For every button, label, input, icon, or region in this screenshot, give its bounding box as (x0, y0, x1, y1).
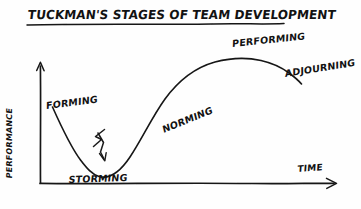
title-underline-stroke (27, 24, 284, 25)
page-title: Tuckman's Stages of Team Development (27, 7, 337, 22)
sketch-canvas: Tuckman's Stages of Team Development Per… (0, 0, 361, 209)
stage-label-storming: Storming (68, 172, 128, 185)
lightning-bolt-arrow-icon (94, 130, 107, 161)
x-axis-label: Time (297, 162, 323, 174)
y-axis-label: Performance (5, 107, 14, 179)
